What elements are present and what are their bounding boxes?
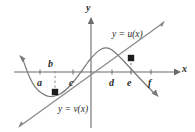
point-upper-intersection xyxy=(128,55,134,61)
y-axis-arrow xyxy=(88,17,94,24)
curve-label-u: y = u(x) xyxy=(112,30,143,40)
x-axis-label: x xyxy=(182,64,187,74)
x-axis-arrow xyxy=(174,69,181,76)
curve-u-arrow-left xyxy=(19,55,26,62)
point-lower-intersection xyxy=(52,89,58,95)
line-v-arrow-up xyxy=(160,21,166,28)
curve-u-arrow xyxy=(152,90,159,98)
tick-label-f: f xyxy=(148,78,151,88)
tick-label-b: b xyxy=(48,59,53,69)
y-axis-label: y xyxy=(86,3,90,13)
tick-label-d: d xyxy=(109,78,114,88)
math-diagram-figure: y x a b c d e f y = u(x) y = v(x) xyxy=(0,0,195,132)
tick-label-a: a xyxy=(37,78,42,88)
graph-canvas xyxy=(0,0,195,132)
tick-label-c: c xyxy=(69,78,73,88)
curve-label-v: y = v(x) xyxy=(58,105,88,115)
tick-label-e: e xyxy=(127,78,131,88)
